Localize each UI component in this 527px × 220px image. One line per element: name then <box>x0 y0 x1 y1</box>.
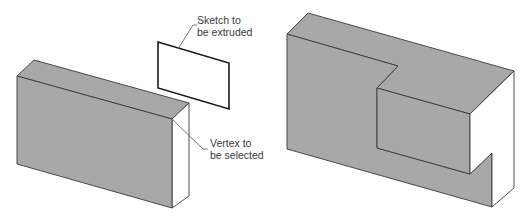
target-block-side-face <box>172 103 189 208</box>
sketch-label-line1: Sketch to <box>197 14 252 26</box>
extruded-result <box>287 13 514 207</box>
extrude-diagram <box>0 0 527 220</box>
vertex-label-line2: be selected <box>210 149 264 161</box>
sketch-label-line2: be extruded <box>197 26 252 38</box>
vertex-label: Vertex to be selected <box>210 137 264 161</box>
sketch-leader-line <box>178 25 197 49</box>
vertex-label-line1: Vertex to <box>210 137 264 149</box>
sketch-label: Sketch to be extruded <box>197 14 252 38</box>
